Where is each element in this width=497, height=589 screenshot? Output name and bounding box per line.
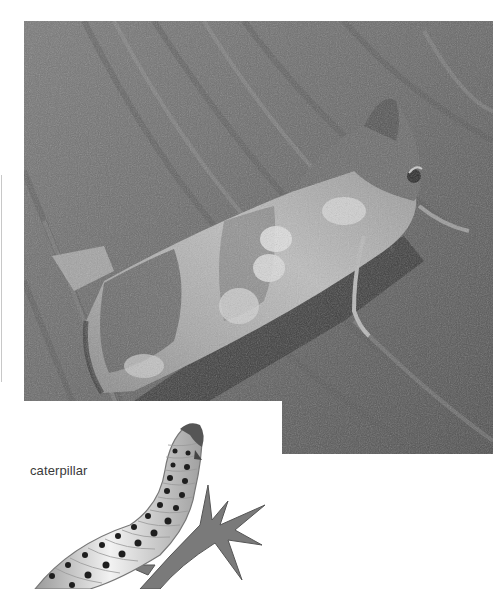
adjacent-page-edge — [1, 175, 2, 382]
caterpillar-illustration — [30, 415, 270, 589]
moth-photo — [24, 21, 493, 454]
